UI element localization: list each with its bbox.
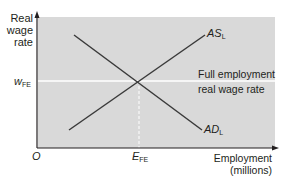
labour-market-diagram: Real wage rate wFE O EFE ASL ADL Full em…: [0, 0, 289, 182]
x-axis-arrow-icon: [272, 146, 279, 151]
x-axis-label-line-1: Employment: [214, 152, 272, 164]
wage-fe-label: wFE: [14, 75, 31, 88]
y-axis-label-line-3: rate: [14, 36, 33, 48]
y-axis-label-line-2: wage: [6, 24, 33, 36]
origin-label: O: [32, 150, 41, 162]
employment-fe-label: EFE: [132, 150, 149, 163]
y-axis-arrow-icon: [35, 11, 40, 18]
annotation-line-2: real wage rate: [198, 83, 265, 95]
x-axis-label-line-2: (millions): [230, 164, 272, 176]
y-axis-label-line-1: Real: [10, 12, 33, 24]
annotation-line-1: Full employment: [198, 68, 275, 80]
